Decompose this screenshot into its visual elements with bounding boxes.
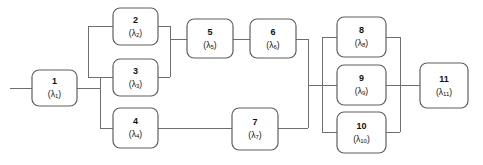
block-2-shape bbox=[113, 8, 158, 45]
block-layer: 1(λ1)2(λ2)3(λ3)4(λ4)5(λ5)6(λ6)7(λ7)8(λ8)… bbox=[32, 8, 468, 153]
block-6-shape bbox=[250, 19, 296, 58]
block-3-rate-suffix: ) bbox=[139, 79, 142, 89]
block-6-id: 6 bbox=[270, 27, 275, 37]
block-11[interactable]: 11(λ11) bbox=[420, 63, 468, 108]
block-2-rate-suffix: ) bbox=[139, 28, 142, 38]
block-5-rate-suffix: ) bbox=[214, 40, 217, 50]
block-1-failure-rate: (λ1) bbox=[48, 89, 61, 99]
block-9[interactable]: 9(λ9) bbox=[337, 65, 386, 105]
block-8-id: 8 bbox=[359, 25, 364, 35]
block-4-rate-suffix: ) bbox=[139, 129, 142, 139]
block-4-shape bbox=[113, 108, 158, 148]
block-5-shape bbox=[187, 19, 233, 58]
block-9-failure-rate: (λ9) bbox=[355, 86, 368, 96]
block-4-id: 4 bbox=[133, 116, 138, 126]
block-8-failure-rate: (λ8) bbox=[355, 38, 368, 48]
block-1-id: 1 bbox=[52, 76, 57, 86]
block-2-failure-rate: (λ2) bbox=[129, 28, 142, 38]
block-6[interactable]: 6(λ6) bbox=[250, 19, 296, 58]
diagram-canvas: 1(λ1)2(λ2)3(λ3)4(λ4)5(λ5)6(λ6)7(λ7)8(λ8)… bbox=[0, 0, 483, 165]
block-10-shape bbox=[337, 112, 386, 153]
block-9-shape bbox=[337, 65, 386, 105]
block-2-id: 2 bbox=[133, 15, 138, 25]
block-10-id: 10 bbox=[356, 121, 366, 131]
reliability-block-diagram: 1(λ1)2(λ2)3(λ3)4(λ4)5(λ5)6(λ6)7(λ7)8(λ8)… bbox=[0, 0, 483, 165]
block-10-rate-suffix: ) bbox=[367, 134, 370, 144]
block-11-id: 11 bbox=[439, 74, 449, 84]
block-3-failure-rate: (λ3) bbox=[129, 79, 142, 89]
block-4[interactable]: 4(λ4) bbox=[113, 108, 158, 148]
block-6-rate-suffix: ) bbox=[277, 40, 280, 50]
block-8-rate-suffix: ) bbox=[365, 38, 368, 48]
block-9-id: 9 bbox=[359, 73, 364, 83]
block-10[interactable]: 10(λ10) bbox=[337, 112, 386, 153]
block-5-failure-rate: (λ5) bbox=[203, 40, 216, 50]
block-4-failure-rate: (λ4) bbox=[129, 129, 142, 139]
block-7-rate-suffix: ) bbox=[259, 130, 262, 140]
block-7-id: 7 bbox=[252, 117, 257, 127]
block-11-rate-suffix: ) bbox=[449, 87, 452, 97]
block-2[interactable]: 2(λ2) bbox=[113, 8, 158, 45]
block-5[interactable]: 5(λ5) bbox=[187, 19, 233, 58]
block-8[interactable]: 8(λ8) bbox=[337, 17, 386, 57]
block-3-shape bbox=[113, 59, 158, 96]
block-5-id: 5 bbox=[207, 27, 212, 37]
block-3-id: 3 bbox=[133, 66, 138, 76]
block-6-failure-rate: (λ6) bbox=[266, 40, 279, 50]
block-1[interactable]: 1(λ1) bbox=[32, 70, 77, 106]
block-9-rate-suffix: ) bbox=[365, 86, 368, 96]
block-1-rate-suffix: ) bbox=[58, 89, 61, 99]
block-7-failure-rate: (λ7) bbox=[248, 130, 261, 140]
block-11-shape bbox=[420, 63, 468, 108]
block-7-shape bbox=[232, 108, 278, 150]
block-8-shape bbox=[337, 17, 386, 57]
block-7[interactable]: 7(λ7) bbox=[232, 108, 278, 150]
block-3[interactable]: 3(λ3) bbox=[113, 59, 158, 96]
